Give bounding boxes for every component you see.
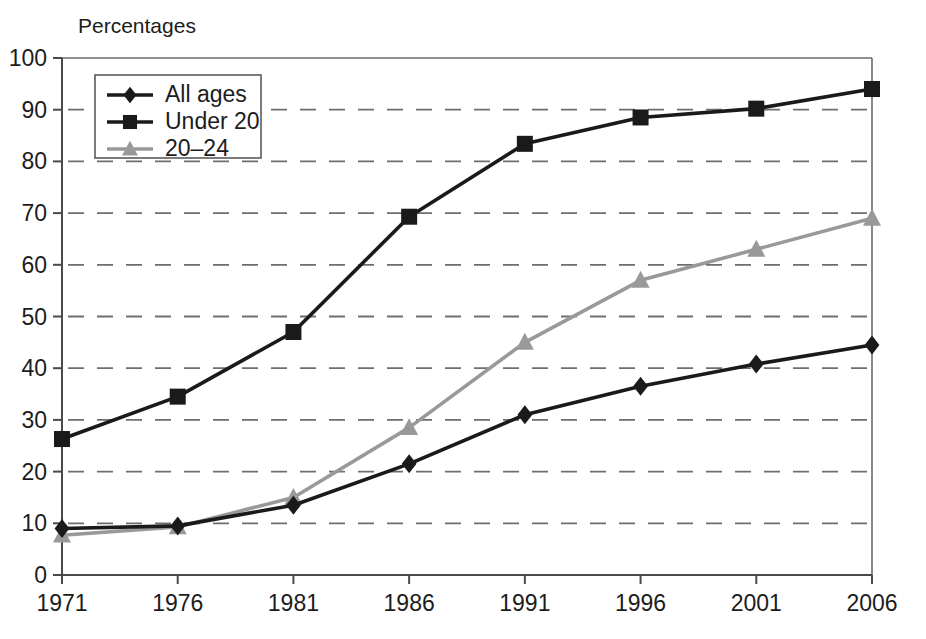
data-point-marker <box>865 335 880 354</box>
data-point-marker <box>402 454 417 473</box>
y-tick-label: 0 <box>34 562 47 588</box>
x-tick-label: 2006 <box>846 590 897 616</box>
series-line <box>62 218 872 535</box>
x-tick-label: 1976 <box>152 590 203 616</box>
data-point-marker <box>285 324 301 340</box>
y-tick-label: 90 <box>21 97 47 123</box>
series-line <box>62 345 872 529</box>
data-point-marker <box>170 389 186 405</box>
y-axis-ticks: 0102030405060708090100 <box>9 45 62 588</box>
x-tick-label: 1981 <box>268 590 319 616</box>
gridlines <box>68 110 868 524</box>
x-tick-label: 1996 <box>615 590 666 616</box>
data-point-marker <box>54 431 70 447</box>
legend-label: Under 20 <box>165 108 260 134</box>
data-point-marker <box>633 377 648 396</box>
line-chart: Percentages 0102030405060708090100 19711… <box>0 0 926 639</box>
x-tick-label: 1991 <box>499 590 550 616</box>
y-tick-label: 70 <box>21 200 47 226</box>
legend-label: All ages <box>165 81 247 107</box>
data-point-marker <box>517 136 533 152</box>
legend-marker-square <box>123 115 137 129</box>
y-tick-label: 30 <box>21 407 47 433</box>
data-point-marker <box>517 405 532 424</box>
series-20-24 <box>53 209 881 543</box>
data-point-marker <box>516 333 534 350</box>
legend-label: 20–24 <box>165 135 229 161</box>
x-axis-ticks: 19711976198119861991199620012006 <box>36 575 897 616</box>
data-point-marker <box>749 355 764 374</box>
y-tick-label: 100 <box>9 45 47 71</box>
data-point-marker <box>401 209 417 225</box>
series-all-ages <box>55 335 880 538</box>
y-axis-title: Percentages <box>78 14 196 37</box>
data-point-marker <box>863 209 881 226</box>
data-point-marker <box>633 109 649 125</box>
y-tick-label: 60 <box>21 252 47 278</box>
y-tick-label: 50 <box>21 304 47 330</box>
x-tick-label: 1986 <box>384 590 435 616</box>
y-tick-label: 20 <box>21 459 47 485</box>
y-tick-label: 10 <box>21 510 47 536</box>
legend: All agesUnder 2020–24 <box>95 75 261 161</box>
chart-container: Percentages 0102030405060708090100 19711… <box>0 0 926 639</box>
y-tick-label: 40 <box>21 355 47 381</box>
x-tick-label: 2001 <box>731 590 782 616</box>
data-point-marker <box>748 101 764 117</box>
y-tick-label: 80 <box>21 148 47 174</box>
data-point-marker <box>864 81 880 97</box>
x-tick-label: 1971 <box>36 590 87 616</box>
